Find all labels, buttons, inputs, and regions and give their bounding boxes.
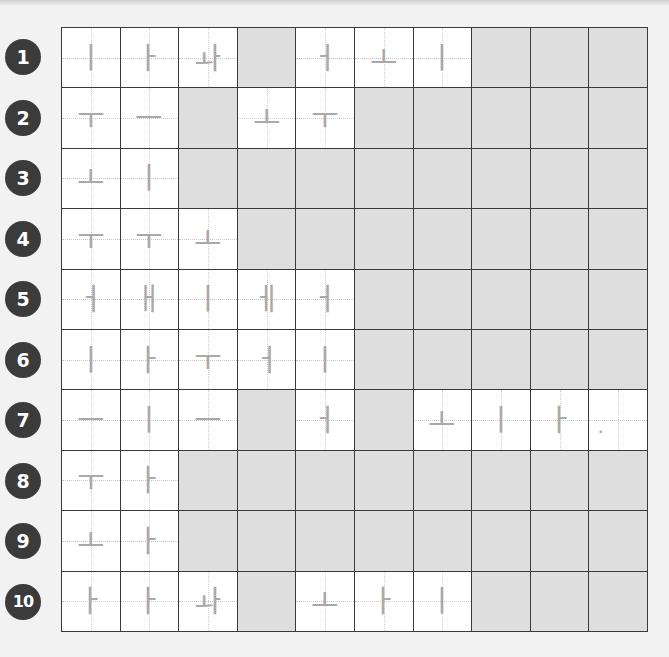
practice-cell[interactable]: ㅏ — [531, 390, 589, 449]
stroke-guide-glyph: ㅣ — [62, 28, 120, 87]
row-number-badge: 3 — [5, 160, 41, 196]
practice-cell[interactable]: ㅣ — [296, 330, 354, 389]
practice-cell[interactable]: ㅜ — [296, 88, 354, 147]
practice-cell[interactable]: ㅏ — [121, 511, 179, 570]
stroke-guide-glyph: ㅜ — [62, 209, 120, 268]
row-number-badge: 7 — [5, 402, 41, 438]
stroke-guide-glyph: ㅘ — [179, 572, 237, 631]
practice-cell[interactable]: ㅗ — [238, 88, 296, 147]
practice-cell[interactable]: ㅗ — [179, 209, 237, 268]
shaded-cell — [531, 149, 589, 208]
practice-cell[interactable]: ㅜ — [121, 209, 179, 268]
practice-cell[interactable]: . — [589, 390, 647, 449]
practice-cell[interactable]: ㅜ — [179, 330, 237, 389]
row-number-badge: 9 — [5, 523, 41, 559]
shaded-cell — [238, 390, 296, 449]
shaded-cell — [238, 572, 296, 631]
stroke-guide-glyph: ㅗ — [62, 149, 120, 208]
practice-cell[interactable]: ㅣ — [414, 572, 472, 631]
practice-cell[interactable]: ㅣ — [472, 390, 530, 449]
stroke-guide-glyph: ㅣ — [121, 390, 179, 449]
practice-cell[interactable]: ㅏ — [355, 572, 413, 631]
shaded-cell — [531, 209, 589, 268]
shaded-cell — [472, 28, 530, 87]
stroke-guide-glyph: ㅣ — [472, 390, 530, 449]
stroke-guide-glyph: ㅡ — [179, 390, 237, 449]
shaded-cell — [238, 209, 296, 268]
stroke-guide-glyph: ㅓ — [296, 390, 354, 449]
practice-cell[interactable]: ㅣ — [62, 28, 120, 87]
stroke-guide-glyph: ㅘ — [179, 28, 237, 87]
practice-cell[interactable]: ㅓ — [296, 390, 354, 449]
practice-cell[interactable]: ㅗ — [62, 511, 120, 570]
stroke-guide-glyph: ㅗ — [296, 572, 354, 631]
shaded-cell — [589, 149, 647, 208]
stroke-guide-glyph: ㅏ — [121, 451, 179, 510]
practice-cell[interactable]: ㅗ — [296, 572, 354, 631]
practice-cell[interactable]: ㅜ — [62, 451, 120, 510]
stroke-guide-glyph: ㅓ — [296, 270, 354, 329]
shaded-cell — [414, 209, 472, 268]
practice-cell[interactable]: ㅏ — [121, 572, 179, 631]
practice-cell[interactable]: ㅓ — [296, 28, 354, 87]
practice-cell[interactable]: ㅡ — [179, 390, 237, 449]
shaded-cell — [531, 28, 589, 87]
shaded-cell — [355, 149, 413, 208]
stroke-guide-glyph: ㅓ — [296, 28, 354, 87]
shaded-cell — [355, 451, 413, 510]
shaded-cell — [414, 149, 472, 208]
shaded-cell — [589, 28, 647, 87]
shaded-cell — [472, 149, 530, 208]
practice-cell[interactable]: ㅗ — [355, 28, 413, 87]
practice-cell[interactable]: ㅘ — [179, 572, 237, 631]
practice-cell[interactable]: ㅏ — [62, 572, 120, 631]
practice-cell[interactable]: ㅏ — [121, 28, 179, 87]
stroke-guide-glyph: ㅗ — [179, 209, 237, 268]
handwriting-practice-grid: ㅣㅏㅘㅓㅗㅣㅜㅡㅗㅜㅗㅣㅜㅜㅗㅓㅐㅣㅔㅓㅣㅏㅜㅓㅣㅡㅣㅡㅓㅗㅣㅏ.ㅜㅏㅗㅏㅏㅏㅘ… — [61, 27, 648, 632]
shaded-cell — [355, 270, 413, 329]
practice-cell[interactable]: ㅜ — [62, 88, 120, 147]
row-number-badge: 10 — [5, 584, 41, 620]
practice-cell[interactable]: ㅏ — [121, 330, 179, 389]
practice-cell[interactable]: ㅗ — [414, 390, 472, 449]
shaded-cell — [355, 209, 413, 268]
practice-cell[interactable]: ㅣ — [121, 149, 179, 208]
stroke-guide-glyph: ㅏ — [121, 330, 179, 389]
practice-cell[interactable]: ㅘ — [179, 28, 237, 87]
stroke-guide-glyph: ㅔ — [238, 270, 296, 329]
stroke-guide-glyph: ㅣ — [414, 28, 472, 87]
practice-cell[interactable]: ㅡ — [121, 88, 179, 147]
stroke-guide-glyph: ㅏ — [355, 572, 413, 631]
practice-cell[interactable]: ㅐ — [121, 270, 179, 329]
practice-cell[interactable]: ㅣ — [121, 390, 179, 449]
practice-cell[interactable]: ㅡ — [62, 390, 120, 449]
practice-cell[interactable]: ㅓ — [62, 270, 120, 329]
practice-cell[interactable]: ㅣ — [179, 270, 237, 329]
shaded-cell — [472, 88, 530, 147]
shaded-cell — [589, 572, 647, 631]
shaded-cell — [531, 511, 589, 570]
stroke-guide-glyph: ㅐ — [121, 270, 179, 329]
stroke-guide-glyph: ㅗ — [238, 88, 296, 147]
stroke-guide-glyph: ㅗ — [62, 511, 120, 570]
shaded-cell — [414, 330, 472, 389]
stroke-guide-glyph: ㅜ — [179, 330, 237, 389]
practice-cell[interactable]: ㅗ — [62, 149, 120, 208]
practice-cell[interactable]: ㅏ — [121, 451, 179, 510]
practice-cell[interactable]: ㅓ — [238, 330, 296, 389]
row-number-badge: 5 — [5, 281, 41, 317]
stroke-guide-glyph: ㅡ — [121, 88, 179, 147]
shaded-cell — [531, 451, 589, 510]
shaded-cell — [296, 451, 354, 510]
shaded-cell — [238, 28, 296, 87]
practice-cell[interactable]: ㅜ — [62, 209, 120, 268]
shaded-cell — [589, 88, 647, 147]
practice-cell[interactable]: ㅣ — [414, 28, 472, 87]
practice-cell[interactable]: ㅔ — [238, 270, 296, 329]
stroke-guide-glyph: ㅜ — [296, 88, 354, 147]
stroke-guide-glyph: . — [589, 390, 647, 449]
practice-cell[interactable]: ㅓ — [296, 270, 354, 329]
practice-cell[interactable]: ㅣ — [62, 330, 120, 389]
stroke-guide-glyph: ㅣ — [62, 330, 120, 389]
shaded-cell — [179, 511, 237, 570]
